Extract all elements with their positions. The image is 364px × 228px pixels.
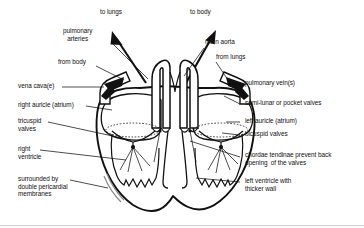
label-right-auricle: right auricle (atrium) <box>18 101 74 109</box>
label-pulmonary-veins: pulmonary vein(s) <box>245 79 295 87</box>
leader-from-body <box>96 66 124 80</box>
label-tricuspid-valves: tricuspid valves <box>18 117 41 132</box>
label-to-lungs: to lungs <box>100 8 122 16</box>
label-chordae-tendinae: chordae tendinae prevent back opening of… <box>245 151 331 166</box>
label-semi-lunar-valves: semi-lunar or pocket valves <box>245 99 321 107</box>
label-to-body: to body <box>190 8 211 16</box>
label-main-aorta: main aorta <box>205 38 235 46</box>
leader-pericardium <box>70 180 108 188</box>
leader-pulmonary-arteries <box>112 43 148 79</box>
label-from-lungs: from lungs <box>216 53 245 61</box>
label-left-auricle: left auricle (atrium) <box>245 117 297 125</box>
label-pulmonary-arteries: pulmonary arteries <box>63 27 92 42</box>
to-lungs-arrow <box>111 31 147 83</box>
label-pericardial-membranes: surrounded by double pericardial membran… <box>18 175 68 198</box>
label-right-ventricle: right ventricle <box>18 145 41 160</box>
label-bicuspid-valves: bicuspid valves <box>245 130 288 138</box>
heart-diagram-figure: to lungs to body pulmonary arteries main… <box>0 0 364 228</box>
label-left-ventricle: left ventricle with thicker wall <box>245 177 291 192</box>
label-vena-cavae: vena cava(e) <box>18 82 54 90</box>
label-from-body: from body <box>58 58 86 66</box>
